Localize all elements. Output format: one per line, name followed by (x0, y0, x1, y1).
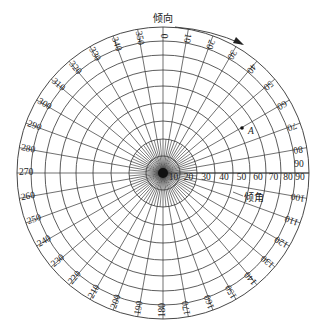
azimuth-label-10: 10 (182, 33, 194, 44)
point-a-label: A (247, 126, 254, 136)
dip-label-70: 70 (269, 172, 279, 182)
azimuth-label-60: 60 (275, 98, 288, 112)
azimuth-label-100: 100 (290, 191, 306, 203)
azimuth-label-190: 190 (132, 300, 144, 316)
azimuth-label-250: 250 (26, 212, 43, 226)
dip-label-20: 20 (184, 172, 194, 182)
azimuth-label-240: 240 (35, 233, 53, 249)
azimuth-label-270: 270 (19, 167, 34, 177)
dip-label-30: 30 (201, 172, 211, 182)
azimuth-label-180: 180 (157, 303, 167, 318)
azimuth-label-290: 290 (26, 118, 43, 132)
azimuth-label-80: 80 (292, 144, 303, 156)
azimuth-label-330: 330 (87, 45, 103, 63)
center-hub (158, 168, 168, 178)
azimuth-label-300: 300 (36, 96, 54, 112)
arrowhead-icon (233, 37, 244, 45)
dip-label-90: 90 (295, 172, 305, 182)
azimuth-label-20: 20 (204, 38, 217, 51)
azimuth-label-110: 110 (283, 213, 300, 227)
azimuth-label-340: 340 (110, 36, 124, 53)
azimuth-label-200: 200 (108, 293, 122, 310)
azimuth-label-160: 160 (202, 293, 216, 310)
azimuth-label-120: 120 (272, 234, 290, 250)
dip-label-10: 10 (169, 172, 179, 182)
dip-label-80: 80 (283, 172, 293, 182)
dip-labels: 102030405060708090 (169, 172, 305, 182)
azimuth-label-90: 90 (294, 159, 304, 169)
azimuth-label-150: 150 (223, 283, 239, 301)
dip-label-50: 50 (237, 172, 247, 182)
azimuth-label-280: 280 (20, 142, 36, 154)
dip-title-leader (233, 192, 243, 196)
azimuth-label-70: 70 (286, 121, 299, 134)
point-a-marker (240, 126, 244, 130)
azimuth-label-30: 30 (225, 48, 239, 61)
dip-label-60: 60 (253, 172, 263, 182)
azimuth-label-210: 210 (86, 282, 102, 300)
azimuth-label-0: 0 (159, 34, 169, 39)
dip-label-40: 40 (219, 172, 229, 182)
polar-stereonet-diagram: 0102030405060708090100110120130140150160… (0, 0, 325, 332)
dip-title: 倾角 (244, 191, 264, 203)
direction-title: 倾向 (153, 12, 173, 24)
